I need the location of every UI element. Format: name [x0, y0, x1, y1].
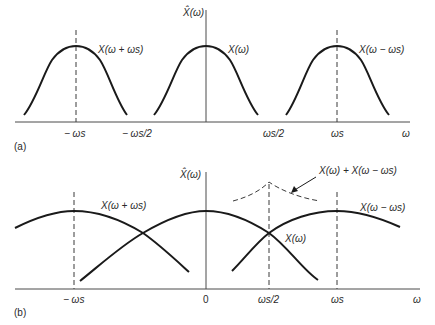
sum-annotation-arrowhead-icon — [291, 186, 298, 193]
panel-b-curve-x — [80, 211, 318, 281]
panel-a-tick-minus-ws: − ωs — [64, 129, 85, 139]
sum-annotation-arrow-line — [293, 177, 316, 191]
panel-a-x-axis-label: ω — [402, 129, 410, 139]
panel-a-curve-label-x-minus-ws: X(ω − ωs) — [359, 45, 404, 55]
panel-a-tick-minus-ws-half: − ωs/2 — [122, 129, 152, 139]
panel-a-graphics — [15, 10, 410, 122]
panel-b-x-axis-label: ω — [413, 295, 421, 305]
panel-b-tick-ws-half: ωs/2 — [258, 295, 279, 305]
panel-a-tick-ws: ωs — [331, 129, 344, 139]
panel-b-tag: (b) — [14, 308, 26, 318]
panel-b-graphics — [15, 172, 420, 289]
panel-b-curve-label-x-minus-ws: X(ω − ωs) — [360, 203, 405, 213]
panel-b-tick-zero: 0 — [203, 295, 209, 305]
panel-b-y-axis-label: X̂(ω) — [180, 170, 201, 180]
panel-a-curve-label-x-plus-ws: X(ω + ωs) — [98, 45, 143, 55]
panel-b-tick-ws: ωs — [331, 295, 344, 305]
panel-a-y-axis-label: X̂(ω) — [183, 8, 204, 18]
panel-a-tag: (a) — [14, 142, 26, 152]
panel-b-tick-minus-ws: − ωs — [63, 295, 84, 305]
panel-a-tick-ws-half: ωs/2 — [263, 129, 284, 139]
panel-b-curve-label-x-plus-ws: X(ω + ωs) — [101, 201, 146, 211]
panel-a-curve-label-x: X(ω) — [228, 45, 249, 55]
panel-b-curve-sum — [233, 182, 320, 201]
panel-b-sum-annotation: X(ω) + X(ω − ωs) — [319, 166, 397, 176]
panel-b-curve-x-minus-ws — [232, 211, 400, 271]
panel-b-curve-label-x: X(ω) — [285, 234, 306, 244]
